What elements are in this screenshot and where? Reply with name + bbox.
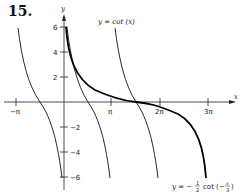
series-cot-x: [18, 28, 158, 178]
svg-text:2: 2: [196, 187, 199, 193]
svg-text:cot (−: cot (−: [203, 183, 225, 191]
svg-text:y = −: y = −: [171, 183, 192, 191]
x-axis-label: x: [234, 93, 238, 101]
y-tick-neg6: −6: [70, 174, 81, 182]
svg-text:x: x: [226, 180, 229, 186]
axes: [4, 18, 232, 190]
y-tick-neg2: −2: [70, 124, 80, 132]
svg-text:3: 3: [226, 187, 229, 193]
y-tick-neg4: −4: [70, 149, 81, 157]
svg-text:1: 1: [196, 180, 199, 186]
x-tick-2pi: 2π: [155, 108, 164, 116]
x-tick-3pi: 3π: [204, 108, 213, 116]
transformed-label: y = − 1 2 cot (− x 3 ): [171, 180, 234, 193]
x-tick-pi: π: [108, 108, 113, 116]
y-axis-label: y: [60, 5, 66, 13]
y-tick-4: 4: [53, 49, 58, 57]
cot-x-label: y = cot (x): [97, 18, 135, 26]
x-tick-neg-pi: −π: [10, 108, 21, 116]
y-tick-6: 6: [53, 24, 58, 32]
y-tick-2: 2: [53, 74, 57, 82]
series-transformed-cot: [66, 27, 206, 178]
svg-text:): ): [231, 183, 234, 191]
cotangent-chart: −π π 2π 3π 6 4 2 −2 −4 −6 y x y = cot (x…: [0, 0, 241, 195]
y-axis-arrow-icon: [62, 14, 66, 21]
